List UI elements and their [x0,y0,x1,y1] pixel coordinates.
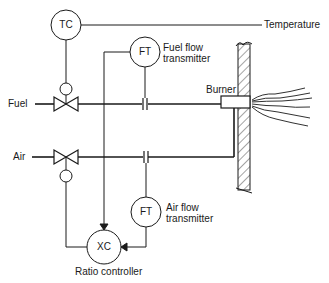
tc-tag: TC [51,19,81,31]
air-flow-transmitter-label-1: Air flow [166,202,199,213]
fuel-label: Fuel [8,98,27,109]
burner [221,96,250,108]
fuel-flow-transmitter-label-1: Fuel flow [163,42,203,53]
ratio-controller-label: Ratio controller [75,266,142,277]
temperature-label: Temperature [264,19,320,30]
fuel-flow-transmitter-label-2: transmitter [163,53,210,64]
fuel-ft-tag: FT [130,46,160,58]
air-flow-transmitter-label-2: transmitter [166,213,213,224]
air-valve-actuator [60,170,72,182]
flame [252,88,312,126]
air-control-valve [54,150,66,164]
arrow-into-xc-right [121,243,127,251]
air-ft-tag: FT [131,206,161,218]
fuel-valve-actuator [60,83,72,95]
arrow-into-xc-top [100,224,108,230]
burner-label: Burner [206,84,236,95]
air-label: Air [13,151,25,162]
xc-tag: XC [89,241,119,253]
furnace-wall [238,44,250,190]
fuel-control-valve [54,97,66,111]
